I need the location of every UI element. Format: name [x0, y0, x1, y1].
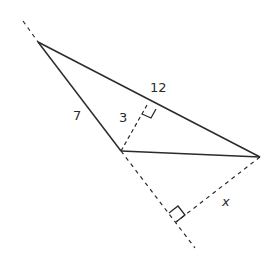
right-angle-marker-ext — [169, 206, 185, 222]
extension-line-ab — [23, 21, 38, 42]
side-ab — [38, 42, 121, 151]
extension-line-ab-lower — [121, 151, 195, 248]
geometry-diagram: 7 12 3 x — [0, 0, 275, 262]
label-height-x: x — [221, 194, 230, 209]
label-side-ac: 12 — [150, 80, 167, 95]
label-side-ab: 7 — [73, 108, 81, 123]
right-angle-marker-ac — [142, 109, 156, 118]
label-height-ac: 3 — [119, 110, 127, 125]
side-ac — [38, 42, 260, 157]
height-c-to-ab-ext — [176, 157, 260, 222]
side-bc — [121, 151, 260, 157]
